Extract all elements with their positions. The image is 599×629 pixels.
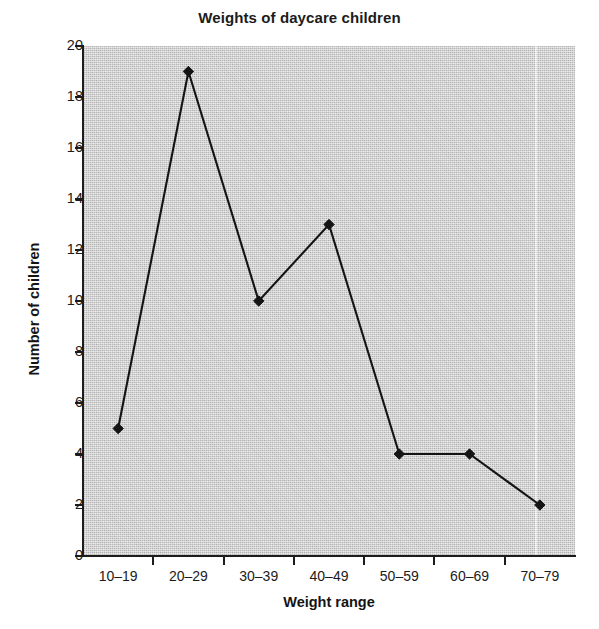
x-axis-title: Weight range	[83, 594, 575, 610]
x-tick-mark	[363, 557, 365, 565]
data-point-marker	[394, 449, 404, 459]
x-tick-mark	[152, 557, 154, 565]
y-tick-label: 18	[43, 88, 83, 104]
y-tick-label: 8	[43, 343, 83, 359]
x-tick-mark	[223, 557, 225, 565]
chart-container: Weights of daycare children 024681012141…	[0, 0, 599, 629]
y-tick-label: 2	[43, 496, 83, 512]
y-tick-label: 20	[43, 37, 83, 53]
series-polyline	[118, 72, 540, 506]
x-tick-label: 70–79	[495, 568, 585, 584]
y-tick-label: 10	[43, 292, 83, 308]
y-tick-label: 16	[43, 139, 83, 155]
x-tick-mark	[293, 557, 295, 565]
y-tick-label: 12	[43, 241, 83, 257]
y-tick-label: 6	[43, 394, 83, 410]
data-point-marker	[113, 423, 123, 433]
x-tick-mark	[504, 557, 506, 565]
y-tick-label: 14	[43, 190, 83, 206]
y-tick-label: 0	[43, 547, 83, 563]
y-tick-label: 4	[43, 445, 83, 461]
data-series-line	[83, 46, 575, 556]
x-tick-mark	[433, 557, 435, 565]
data-point-marker	[183, 66, 193, 76]
y-axis-title: Number of children	[26, 179, 42, 439]
chart-title: Weights of daycare children	[0, 9, 599, 26]
